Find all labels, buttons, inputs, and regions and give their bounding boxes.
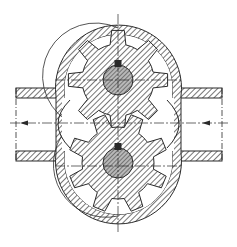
gear-pump-drawing [0,0,237,247]
inlet-arrow-icon [202,121,210,126]
outlet-arrow-icon [20,121,28,126]
